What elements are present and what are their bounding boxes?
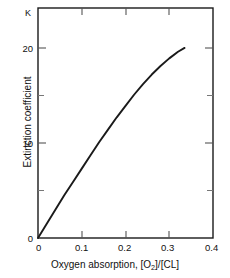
y-tick-label-0: 0 [14,234,33,244]
x-tick-label-2: 0.2 [118,243,131,253]
x-tick-label-3: 0.3 [161,243,174,253]
x-axis-title-suffix: ]/[CL] [155,259,179,270]
chart-figure: K Extinction coefficient Oxygen absorpti… [0,0,230,278]
plot-area [0,0,230,278]
x-tick-label-0: 0 [36,243,41,253]
x-axis-major-ticks [82,8,169,238]
x-tick-label-1: 0.1 [75,243,88,253]
y-axis-minor-ticks [38,96,213,191]
y-tick-label-1: 10 [14,139,33,149]
y-axis-title: Extinction coefficient [23,47,33,197]
y-axis-major-ticks [38,48,213,143]
data-series-line [38,48,185,238]
y-tick-label-2: 20 [14,44,33,54]
y-axis-symbol-annotation: K [25,9,31,18]
x-axis-title-prefix: Oxygen absorption, [O [51,259,151,270]
plot-frame [38,8,213,238]
x-tick-label-4: 0.4 [205,243,218,253]
x-axis-title: Oxygen absorption, [O2]/[CL] [0,260,230,271]
